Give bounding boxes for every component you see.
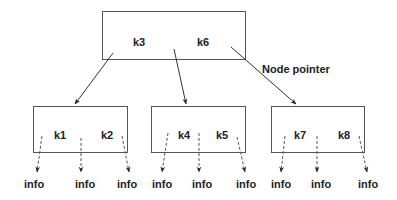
child-node-middle: k4 k5 info info info [152, 107, 257, 191]
tree-diagram: k3 k6 Node pointer k1 k2 info info info … [0, 0, 397, 200]
pointer-arrow-left [75, 53, 113, 104]
child-right-key-2: k8 [338, 129, 350, 141]
info-label: info [192, 178, 212, 190]
info-label: info [358, 178, 378, 190]
child-left-key-1: k1 [54, 129, 66, 141]
child-node-right-box [272, 107, 365, 153]
info-label: info [271, 178, 291, 190]
info-label: info [152, 178, 172, 190]
root-key-1: k3 [133, 36, 145, 48]
root-key-2: k6 [197, 36, 209, 48]
info-label: info [311, 178, 331, 190]
child-node-right: k7 k8 info info info [271, 107, 378, 191]
root-node-box [103, 12, 246, 60]
child-node-left: k1 k2 info info info [24, 107, 137, 191]
info-label: info [24, 178, 44, 190]
child-middle-key-1: k4 [178, 129, 191, 141]
child-right-key-1: k7 [294, 129, 306, 141]
pointer-arrow-right [231, 47, 296, 104]
child-middle-key-2: k5 [216, 129, 228, 141]
node-pointer-label: Node pointer [262, 63, 331, 75]
info-label: info [75, 178, 95, 190]
child-left-key-2: k2 [101, 129, 113, 141]
root-node: k3 k6 [103, 12, 246, 60]
info-label: info [117, 178, 137, 190]
info-label: info [236, 178, 256, 190]
